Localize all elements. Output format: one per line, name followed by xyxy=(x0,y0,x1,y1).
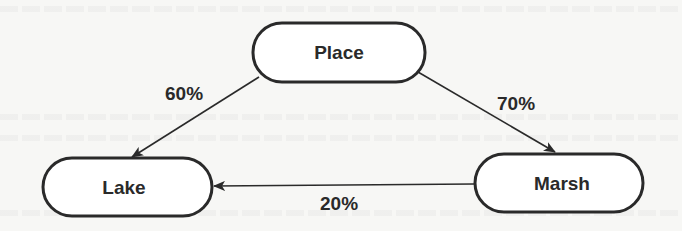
node-marsh-label: Marsh xyxy=(534,173,590,194)
node-marsh: Marsh xyxy=(475,154,643,212)
node-place: Place xyxy=(253,23,425,82)
arrow-line xyxy=(214,184,474,186)
edge-label-60: 60% xyxy=(165,83,203,104)
node-lake-label: Lake xyxy=(102,177,145,198)
edge-place-to-marsh: 70% xyxy=(418,72,555,152)
edge-label-20: 20% xyxy=(320,193,358,214)
edge-place-to-lake: 60% xyxy=(132,77,259,157)
edge-label-70: 70% xyxy=(497,93,535,114)
flow-diagram: 60% 70% 20% Place Lake Marsh xyxy=(0,0,682,231)
node-place-label: Place xyxy=(314,42,364,63)
node-lake: Lake xyxy=(43,158,212,216)
edge-marsh-to-lake: 20% xyxy=(214,184,474,214)
